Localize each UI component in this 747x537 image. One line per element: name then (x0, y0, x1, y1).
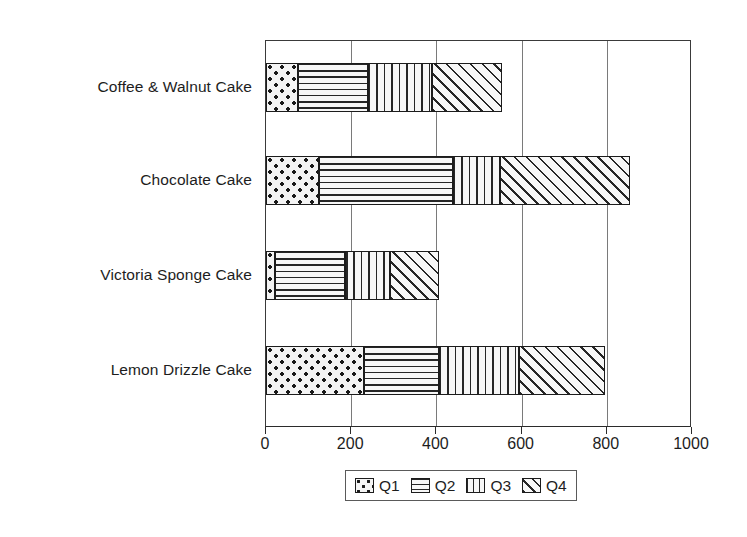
x-axis-tick (435, 427, 436, 434)
x-axis-tick-label: 0 (261, 436, 270, 452)
x-axis-tick-label: 200 (337, 436, 364, 452)
bar-segment-q1 (266, 346, 364, 395)
bar-segment-q3 (368, 63, 432, 112)
legend-label: Q1 (379, 478, 400, 494)
x-axis-tick-label: 800 (592, 436, 619, 452)
bar-segment-q4 (390, 251, 439, 300)
bar-segment-q3 (453, 156, 500, 205)
gridline (607, 41, 608, 426)
x-axis-tick (521, 427, 522, 434)
bar-segment-q4 (432, 63, 502, 112)
plot-area (265, 40, 691, 427)
bar-segment-q2 (275, 251, 345, 300)
legend-label: Q4 (546, 478, 567, 494)
legend-item-q4[interactable]: Q4 (522, 478, 567, 494)
category-label: Victoria Sponge Cake (0, 267, 252, 283)
bar-segment-q3 (345, 251, 390, 300)
category-label: Lemon Drizzle Cake (0, 362, 252, 378)
bar-segment-q3 (439, 346, 520, 395)
x-axis-tick-label: 400 (422, 436, 449, 452)
bar-segment-q2 (364, 346, 439, 395)
bar-segment-q4 (519, 346, 604, 395)
bar-segment-q2 (319, 156, 453, 205)
chart-legend: Q1Q2Q3Q4 (345, 470, 577, 501)
bar-segment-q2 (298, 63, 368, 112)
legend-item-q1[interactable]: Q1 (355, 478, 400, 494)
x-axis-tick-label: 1000 (673, 436, 709, 452)
bar-segment-q1 (266, 63, 298, 112)
x-axis-tick (606, 427, 607, 434)
x-axis-tick-label: 600 (507, 436, 534, 452)
legend-swatch-q1-icon (355, 478, 374, 493)
category-label: Chocolate Cake (0, 172, 252, 188)
legend-label: Q2 (435, 478, 456, 494)
legend-swatch-q4-icon (522, 478, 541, 493)
legend-swatch-q3-icon (466, 478, 485, 493)
x-axis-tick (265, 427, 266, 434)
y-axis-category-labels: Coffee & Walnut CakeChocolate CakeVictor… (0, 0, 252, 537)
legend-swatch-q2-icon (411, 478, 430, 493)
bar-chart: Coffee & Walnut CakeChocolate CakeVictor… (0, 0, 747, 537)
category-label: Coffee & Walnut Cake (0, 79, 252, 95)
legend-item-q3[interactable]: Q3 (466, 478, 511, 494)
legend-item-q2[interactable]: Q2 (411, 478, 456, 494)
x-axis-tick (691, 427, 692, 434)
bar-segment-q4 (500, 156, 630, 205)
bar-segment-q1 (266, 156, 319, 205)
x-axis-tick (350, 427, 351, 434)
legend-label: Q3 (490, 478, 511, 494)
bar-segment-q1 (266, 251, 275, 300)
